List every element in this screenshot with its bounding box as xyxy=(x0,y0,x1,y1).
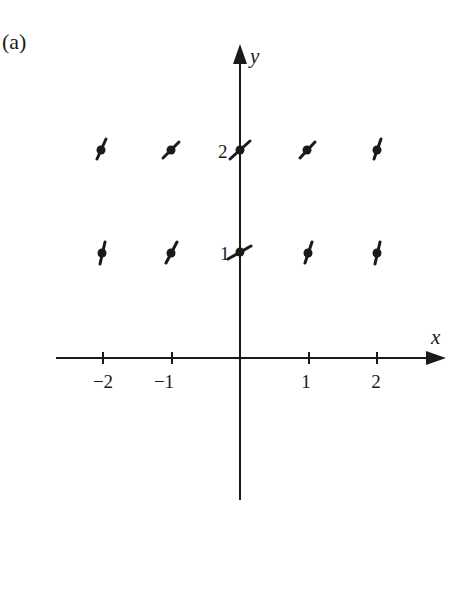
x-tick-label: 1 xyxy=(301,371,311,392)
x-axis-arrow-icon xyxy=(426,351,446,365)
y-axis-label: y xyxy=(248,44,260,68)
point-dot xyxy=(304,249,313,258)
point-dot xyxy=(167,146,176,155)
slope-field-figure: (a) −2 −1 1 2 x y 2 1 xyxy=(0,0,452,607)
y-axis: y 2 1 xyxy=(218,44,260,500)
x-tick-label: −2 xyxy=(93,371,113,392)
point-dot xyxy=(236,146,245,155)
point-dot xyxy=(236,248,245,257)
x-tick-label: −1 xyxy=(154,371,174,392)
point-dot xyxy=(97,146,106,155)
x-axis: −2 −1 1 2 x xyxy=(56,325,446,392)
point-dot xyxy=(373,249,382,258)
point-dot xyxy=(303,146,312,155)
y-tick-label: 1 xyxy=(220,243,230,264)
y-tick-label: 2 xyxy=(218,141,228,162)
point-dot xyxy=(373,146,382,155)
y-axis-arrow-icon xyxy=(233,44,247,64)
point-dot xyxy=(167,249,176,258)
point-dot xyxy=(98,249,107,258)
x-tick-label: 2 xyxy=(371,371,381,392)
panel-label: (a) xyxy=(2,29,26,54)
x-axis-label: x xyxy=(430,325,441,349)
